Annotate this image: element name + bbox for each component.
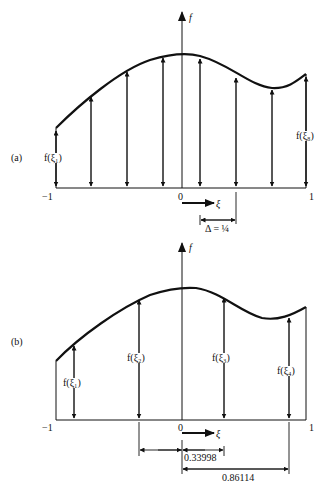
diagram-canvas — [0, 0, 328, 494]
function-curve-a — [56, 54, 306, 128]
tick-minus-one-b: −1 — [42, 423, 53, 433]
dimension-inner-b: 0.33998 — [184, 453, 217, 463]
sample-arrows-a — [56, 58, 306, 186]
sample-label-first-a: f(ξ₁) — [44, 153, 62, 163]
panel-label-a: (a) — [11, 153, 22, 163]
tick-one-a: 1 — [309, 192, 314, 202]
xi-label-b: ξ — [216, 429, 220, 439]
sample-label-1-b: f(ξ₁) — [63, 378, 81, 388]
tick-minus-one-a: −1 — [42, 192, 53, 202]
tick-zero-b: 0 — [178, 423, 183, 433]
dimension-outer-b: 0.86114 — [222, 473, 254, 483]
spacing-label-a: Δ = ¼ — [205, 224, 229, 234]
sample-label-2-b: f(ξ₂) — [127, 353, 145, 363]
tick-zero-a: 0 — [178, 192, 183, 202]
sample-label-3-b: f(ξ₃) — [212, 353, 230, 363]
sample-label-last-a: f(ξ₈) — [296, 131, 314, 141]
f-axis-label-a: f — [189, 13, 192, 23]
panel-label-b: (b) — [11, 337, 23, 347]
xi-label-a: ξ — [216, 199, 220, 209]
function-curve-b — [56, 288, 306, 361]
f-axis-label-b: f — [189, 243, 192, 253]
panel-b — [56, 243, 306, 474]
sample-label-4-b: f(ξ₄) — [277, 366, 295, 376]
tick-one-b: 1 — [309, 423, 314, 433]
